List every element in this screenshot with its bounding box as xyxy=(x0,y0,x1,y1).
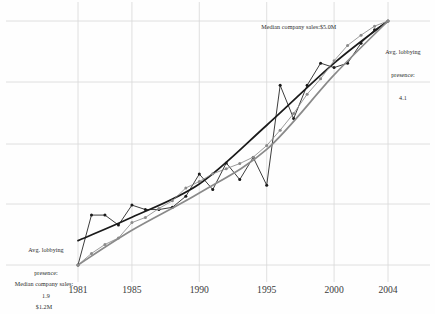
x-axis-tick-1985: 1985 xyxy=(112,284,152,295)
data-point-marker xyxy=(130,204,133,207)
x-axis-tick-1990: 1990 xyxy=(179,284,219,295)
data-point-marker xyxy=(198,180,201,183)
data-point-marker xyxy=(333,66,336,69)
data-point-marker xyxy=(265,144,268,147)
data-point-marker xyxy=(90,214,93,217)
x-axis-tick-1995: 1995 xyxy=(247,284,287,295)
data-point-marker xyxy=(225,167,228,170)
data-point-marker xyxy=(238,178,241,181)
data-point-marker xyxy=(306,93,309,96)
annotation-lobbying-start-line1: Avg. lobbying xyxy=(6,247,86,255)
x-axis-tick-1981: 1981 xyxy=(58,284,98,295)
data-point-marker xyxy=(184,186,187,189)
data-point-marker xyxy=(103,243,106,246)
annotation-median-sales-end: Median company sales:$5.0M xyxy=(255,16,385,39)
data-point-marker xyxy=(130,221,133,224)
x-axis-tick-2004: 2004 xyxy=(368,284,408,295)
x-axis-tick-2000: 2000 xyxy=(314,284,354,295)
data-point-marker xyxy=(238,162,241,165)
data-point-marker xyxy=(144,216,147,219)
data-point-marker xyxy=(319,62,322,65)
annotation-median-sales-end-text: Median company sales:$5.0M xyxy=(261,24,336,30)
data-point-marker xyxy=(184,195,187,198)
data-point-marker xyxy=(211,188,214,191)
annotation-lobbying-end: Avg. lobbying presence: 4.1 xyxy=(372,34,434,118)
data-point-marker xyxy=(211,172,214,175)
annotation-lobbying-end-line2: presence: xyxy=(372,72,434,80)
annotation-lobbying-end-line1: Avg. lobbying xyxy=(372,49,434,57)
data-point-marker xyxy=(319,77,322,80)
data-point-marker xyxy=(198,173,201,176)
data-point-marker xyxy=(252,156,255,159)
annotation-lobbying-end-line3: 4.1 xyxy=(372,95,434,103)
data-point-marker xyxy=(103,214,106,217)
data-point-marker xyxy=(171,199,174,202)
data-point-marker xyxy=(279,84,282,87)
data-point-marker xyxy=(157,207,160,210)
data-point-marker xyxy=(265,184,268,187)
annotation-median-sales-start-line2: $1.2M xyxy=(1,304,87,312)
data-point-marker xyxy=(346,44,349,47)
data-point-marker xyxy=(333,59,336,62)
data-point-marker xyxy=(279,129,282,132)
data-point-marker xyxy=(292,112,295,115)
